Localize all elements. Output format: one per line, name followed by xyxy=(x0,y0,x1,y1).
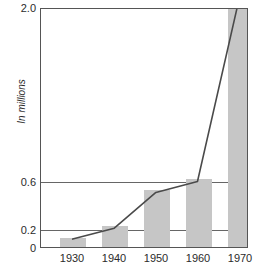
x-tick-1960: 1960 xyxy=(186,252,210,264)
plot-area xyxy=(40,8,248,248)
y-tick-0.6: 0.6 xyxy=(0,176,36,188)
x-tick-1930: 1930 xyxy=(60,252,84,264)
y-tick-0.2: 0.2 xyxy=(0,224,36,236)
y-axis-title: In millions xyxy=(16,67,27,137)
x-tick-1950: 1950 xyxy=(144,252,168,264)
y-tick-0: 0 xyxy=(0,242,36,254)
trend-line-layer xyxy=(41,9,247,247)
y-tick-2.0: 2.0 xyxy=(0,2,36,14)
x-tick-1940: 1940 xyxy=(102,252,126,264)
x-axis-tick-labels: 1930 1940 1950 1960 1970 xyxy=(40,252,248,270)
chart-figure: 2.0 0.6 0.2 0 In millions 1930 1940 1950… xyxy=(0,0,259,272)
trend-line xyxy=(73,8,239,239)
x-tick-1970: 1970 xyxy=(228,252,252,264)
